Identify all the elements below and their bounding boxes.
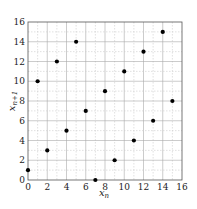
data-point xyxy=(103,89,107,93)
data-point xyxy=(122,69,126,73)
grid xyxy=(28,22,182,180)
y-tick-label: 8 xyxy=(19,96,25,106)
data-point xyxy=(74,40,78,44)
x-tick-label: 6 xyxy=(83,182,89,192)
y-tick-label: 2 xyxy=(19,155,25,165)
data-point xyxy=(170,99,174,103)
data-point xyxy=(132,138,136,142)
x-axis-label: xn xyxy=(99,187,110,200)
data-point xyxy=(93,178,97,182)
x-tick-label: 0 xyxy=(25,182,31,192)
data-point xyxy=(113,158,117,162)
y-tick-label: 4 xyxy=(19,136,25,146)
data-point xyxy=(84,109,88,113)
x-tick-label: 10 xyxy=(119,182,131,192)
data-point xyxy=(55,59,59,63)
scatter-chart: 02468101214160246810121416 xn xn+1 xyxy=(0,0,197,209)
y-tick-label: 12 xyxy=(14,57,25,67)
axis-ticks: 02468101214160246810121416 xyxy=(14,17,188,192)
data-points xyxy=(26,30,175,182)
data-point xyxy=(141,50,145,54)
y-tick-label: 10 xyxy=(14,76,26,86)
x-tick-label: 12 xyxy=(138,182,149,192)
x-tick-label: 4 xyxy=(64,182,70,192)
data-point xyxy=(45,148,49,152)
data-point xyxy=(161,30,165,34)
data-point xyxy=(64,129,68,133)
x-tick-label: 2 xyxy=(44,182,50,192)
data-point xyxy=(26,168,30,172)
data-point xyxy=(36,79,40,83)
y-tick-label: 0 xyxy=(19,175,25,185)
y-tick-label: 16 xyxy=(14,17,26,27)
x-tick-label: 16 xyxy=(176,182,188,192)
y-tick-label: 6 xyxy=(19,116,25,126)
y-tick-label: 14 xyxy=(14,37,26,47)
x-tick-label: 14 xyxy=(157,182,169,192)
data-point xyxy=(151,119,155,123)
y-axis-label: xn+1 xyxy=(6,91,19,111)
